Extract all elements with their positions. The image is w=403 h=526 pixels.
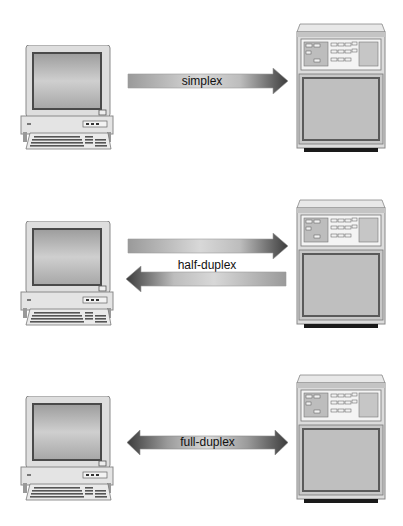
- simplex-label: simplex: [127, 74, 277, 88]
- terminal-computer-icon: [20, 396, 116, 502]
- mainframe-server-icon: [296, 198, 386, 328]
- mainframe-server-icon: [296, 22, 386, 152]
- mainframe-server-icon: [296, 373, 386, 503]
- full-duplex-label: full-duplex: [126, 435, 289, 449]
- terminal-computer-icon: [20, 221, 116, 327]
- terminal-computer-icon: [20, 45, 116, 151]
- half-duplex-arrow-left-icon: [125, 266, 287, 292]
- half-duplex-arrow-right-icon: [127, 233, 289, 259]
